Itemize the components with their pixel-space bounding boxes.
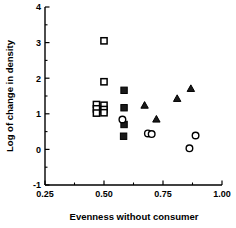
y-axis-label: Log of change in density (4, 39, 15, 152)
data-markers (93, 38, 199, 152)
data-point-open-circle (192, 132, 199, 139)
data-point-open-square (101, 79, 107, 85)
y-tick-labels: -101234 (33, 2, 41, 190)
tick-marks (45, 7, 222, 185)
x-tick-label: 0.50 (95, 189, 113, 199)
data-point-open-square (93, 110, 99, 116)
data-point-open-square (101, 38, 107, 44)
y-tick-label: -1 (33, 180, 41, 190)
data-point-filled-triangle (173, 95, 180, 102)
data-point-filled-square (121, 105, 127, 111)
y-tick-label: 4 (36, 2, 41, 12)
series-filled-triangle (141, 85, 195, 122)
data-point-filled-square (121, 87, 127, 93)
data-point-open-circle (186, 145, 193, 152)
y-tick-label: 0 (36, 145, 41, 155)
y-tick-label: 1 (36, 109, 41, 119)
axes (45, 7, 222, 185)
data-point-filled-triangle (141, 102, 148, 109)
data-point-filled-square (120, 133, 126, 139)
data-point-filled-triangle (153, 115, 160, 122)
x-tick-label: 0.75 (154, 189, 172, 199)
data-point-open-square (101, 110, 107, 116)
data-point-filled-triangle (187, 85, 194, 92)
x-tick-label: 0.25 (36, 189, 54, 199)
x-tick-labels: 0.250.500.751.00 (36, 189, 231, 199)
plot-canvas: 0.250.500.751.00 -101234 Evenness withou… (0, 0, 236, 228)
y-tick-label: 2 (36, 74, 41, 84)
data-point-open-circle (148, 131, 155, 138)
series-filled-square (120, 87, 127, 139)
x-axis-label: Evenness without consumer (70, 211, 199, 222)
data-point-open-circle (119, 116, 126, 123)
series-open-square (93, 38, 107, 116)
x-tick-label: 1.00 (213, 189, 231, 199)
y-tick-label: 3 (36, 38, 41, 48)
scatter-plot-figure: 0.250.500.751.00 -101234 Evenness withou… (0, 0, 236, 228)
